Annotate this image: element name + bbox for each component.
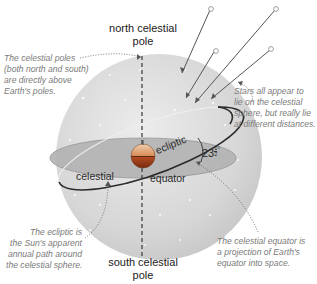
tilt-angle-label: 2312° [202,146,220,159]
celestial-label: celestial [76,170,114,182]
ecliptic-annotation: The ecliptic is the Sun's apparent annua… [6,227,82,271]
equator-label: equator [150,172,186,184]
tilt-degrees: 23 [202,147,214,159]
equator-annotation: The celestial equator is a projection of… [217,236,305,269]
degree-symbol: ° [217,146,220,153]
south-pole-line2: pole [103,269,183,282]
stars-note-line: at different distances. [234,119,316,130]
south-pole-line1: south celestial [103,256,183,269]
north-pole-line1: north celestial [103,22,183,35]
equator-note-line: a projection of Earth's [217,247,305,258]
stars-note-line: sphere, but really lie [234,108,316,119]
poles-note-line: (both north and south) [4,64,89,75]
equator-note-line: equator into space. [217,258,305,269]
equator-note-line: The celestial equator is [217,236,305,247]
ecliptic-note-line: the celestial sphere. [6,260,82,271]
stars-note-line: Stars all appear to [234,86,316,97]
poles-note-line: Earth's poles. [4,86,89,97]
poles-annotation: The celestial poles (both north and sout… [4,53,89,97]
ecliptic-note-line: the Sun's apparent [6,238,82,249]
ecliptic-note-line: annual path around [6,249,82,260]
north-pole-line2: pole [103,35,183,48]
stars-annotation: Stars all appear to lie on the celestial… [234,86,316,130]
stars-note-line: lie on the celestial [234,97,316,108]
poles-note-line: The celestial poles [4,53,89,64]
earth-icon [131,144,155,168]
poles-note-line: are directly above [4,75,89,86]
north-celestial-pole-label: north celestial pole [103,22,183,48]
ecliptic-note-line: The ecliptic is [6,227,82,238]
south-celestial-pole-label: south celestial pole [103,256,183,282]
